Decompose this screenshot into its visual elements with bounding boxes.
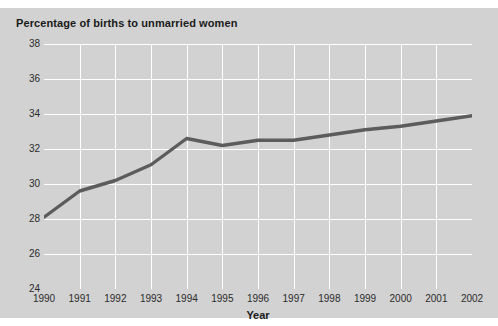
- plot-area: [44, 44, 472, 289]
- y-axis-tick-label: 26: [6, 249, 40, 259]
- chart-figure: Percentage of births to unmarried women …: [0, 8, 498, 318]
- y-axis-tick-label: 36: [6, 74, 40, 84]
- y-axis-tick-label: 32: [6, 144, 40, 154]
- y-axis-tick-label: 34: [6, 109, 40, 119]
- y-axis-tick-label: 28: [6, 214, 40, 224]
- y-axis-tick-labels: 2426283032343638: [0, 8, 40, 318]
- y-axis-tick-label: 38: [6, 39, 40, 49]
- data-series-line: [44, 44, 472, 289]
- chart-title: Percentage of births to unmarried women: [16, 17, 238, 29]
- x-axis-tick-label: 2002: [449, 293, 495, 304]
- y-axis-tick-label: 30: [6, 179, 40, 189]
- x-axis-title: Year: [44, 309, 472, 321]
